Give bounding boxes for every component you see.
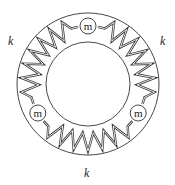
mass-label: m: [34, 107, 43, 119]
masses: mmm: [30, 18, 146, 121]
inner-ring: [46, 42, 130, 126]
spring-constant-label-left: k: [8, 35, 13, 47]
spring: [21, 22, 78, 104]
spring: [98, 22, 155, 104]
mass-label: m: [134, 107, 143, 119]
spring-constant-label-right: k: [160, 35, 165, 47]
mass-label: m: [84, 20, 93, 32]
mass-spring-ring-diagram: mmm: [0, 0, 175, 185]
spring-constant-label-bottom: k: [84, 167, 89, 179]
